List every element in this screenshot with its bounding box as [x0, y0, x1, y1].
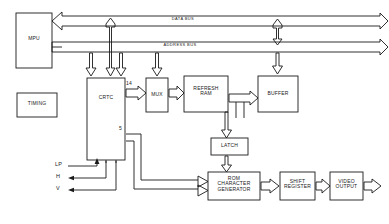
- data-bus-arrow: [52, 12, 388, 30]
- block-buffer[interactable]: [258, 76, 298, 112]
- block-refresh-ram[interactable]: [184, 76, 228, 112]
- h-arrowhead[interactable]: [68, 176, 74, 180]
- block-timing[interactable]: [17, 93, 57, 117]
- crtc-to-rom-line-upper: [126, 134, 198, 180]
- latch-to-rom-arrow: [222, 156, 232, 172]
- v-arrowhead[interactable]: [68, 188, 74, 192]
- diagram-vector-layer: [0, 0, 389, 224]
- address-bus-to-crtc-arrow: [86, 53, 96, 76]
- mux-to-refresh-ram-arrow: [169, 86, 184, 100]
- address-bus-arrow: [52, 39, 388, 55]
- rom-to-shift-register-arrow: [261, 179, 279, 193]
- refresh-ram-to-buffer-arrow: [229, 91, 258, 105]
- refresh-ram-buffer-elbow: [236, 102, 244, 118]
- data-bus-down-crtc-arrow: [106, 18, 115, 76]
- address-bus-to-crtc-arrow-2: [116, 53, 126, 76]
- v-signal-line: [72, 161, 116, 190]
- address-bus-to-mux-arrow: [152, 53, 162, 76]
- address-bus-buffer-arrow: [273, 53, 283, 74]
- refresh-ram-to-latch-arrow: [222, 112, 232, 138]
- lp-signal-line: [68, 162, 97, 166]
- block-shift-register[interactable]: [280, 172, 315, 200]
- block-crtc[interactable]: [87, 78, 125, 160]
- block-mpu[interactable]: [16, 13, 52, 68]
- block-mux[interactable]: [146, 78, 168, 112]
- video-output-arrow: [364, 179, 381, 193]
- block-latch[interactable]: [211, 138, 248, 155]
- block-rom-character-generator[interactable]: [208, 172, 260, 200]
- block-video-output[interactable]: [330, 172, 363, 200]
- h-signal-line: [72, 161, 106, 178]
- crtc-to-rom-line-lower: [126, 141, 198, 189]
- data-bus-buffer-bidirectional-arrow: [273, 19, 282, 45]
- block-diagram-canvas: MPU TIMING CRTC MUX REFRESH RAM BUFFER L…: [0, 0, 389, 224]
- shift-register-to-video-output-arrow: [316, 179, 330, 193]
- crtc-to-mux-arrow: [126, 86, 146, 100]
